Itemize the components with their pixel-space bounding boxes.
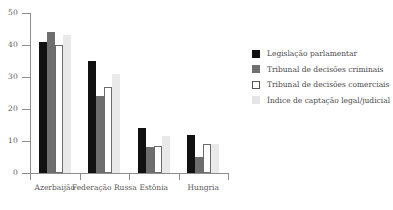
bar xyxy=(203,144,211,173)
legend-item-label: Tribunal de decisões comerciais xyxy=(267,80,389,89)
bar xyxy=(55,45,63,173)
y-axis-tick xyxy=(22,109,30,110)
y-axis-line xyxy=(30,13,31,173)
bar xyxy=(63,35,71,173)
bar-chart-figure: 01020304050 AzerbaijãoFederação RussaEst… xyxy=(0,0,393,210)
y-axis-tick-label: 30 xyxy=(0,73,18,81)
legend-item-label: Índice de captação legal/judicial xyxy=(267,96,390,105)
y-axis-tick xyxy=(22,77,30,78)
plot-area: 01020304050 AzerbaijãoFederação RussaEst… xyxy=(0,0,232,210)
y-axis-tick-label: 50 xyxy=(0,9,18,17)
legend-item[interactable]: Tribunal de decisões criminais xyxy=(252,62,393,78)
y-axis-tick xyxy=(22,173,30,174)
legend-item-label: Tribunal de decisões criminais xyxy=(267,65,383,74)
y-axis-tick-label: 40 xyxy=(0,41,18,49)
bar xyxy=(187,135,195,173)
bar xyxy=(211,144,219,173)
x-axis-tick xyxy=(228,173,229,180)
legend-color-swatch xyxy=(252,81,260,89)
y-axis-tick xyxy=(22,45,30,46)
x-axis-tick xyxy=(80,173,81,180)
bar xyxy=(88,61,96,173)
y-axis-tick-label: 0 xyxy=(0,169,18,177)
y-axis-tick-label: 10 xyxy=(0,137,18,145)
y-axis-tick-label: 20 xyxy=(0,105,18,113)
bar xyxy=(112,74,120,173)
bar xyxy=(138,128,146,173)
bar xyxy=(154,146,162,173)
legend-item-label: Legislação parlamentar xyxy=(267,49,357,58)
bar xyxy=(39,42,47,173)
legend-item[interactable]: Índice de captação legal/judicial xyxy=(252,93,393,109)
x-axis-tick xyxy=(179,173,180,180)
legend-item[interactable]: Legislação parlamentar xyxy=(252,46,393,62)
legend-item[interactable]: Tribunal de decisões comerciais xyxy=(252,77,393,93)
legend-color-swatch xyxy=(252,50,260,58)
bar xyxy=(146,147,154,173)
legend-color-swatch xyxy=(252,65,260,73)
legend-color-swatch xyxy=(252,96,260,104)
chart-legend: Legislação parlamentarTribunal de decisõ… xyxy=(252,46,393,108)
y-axis-tick xyxy=(22,141,30,142)
y-axis-tick xyxy=(22,13,30,14)
x-axis-tick xyxy=(129,173,130,180)
bar xyxy=(104,87,112,173)
x-axis-tick xyxy=(30,173,31,180)
bar xyxy=(47,32,55,173)
bar xyxy=(195,157,203,173)
bar xyxy=(162,136,170,173)
x-axis-category-label: Hungria xyxy=(168,183,238,193)
bar xyxy=(96,96,104,173)
